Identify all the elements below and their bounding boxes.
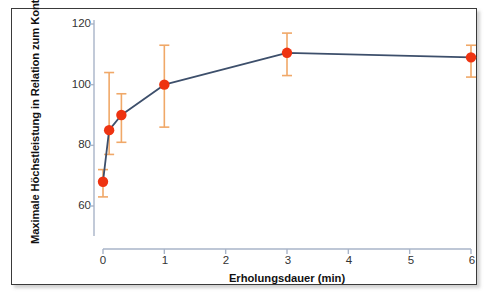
figure-root: Maximale Höchstleistung in Relation zum …	[0, 0, 498, 303]
figure-frame	[11, 8, 477, 285]
